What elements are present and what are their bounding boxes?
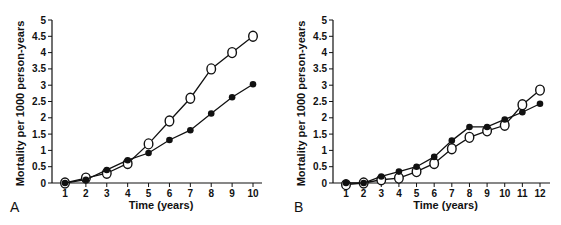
x-tick-label: 1 <box>62 188 68 199</box>
y-tick-label: 0.5 <box>313 161 327 172</box>
filled-circle-marker <box>62 180 69 187</box>
open-circle-marker <box>536 85 545 95</box>
series-filled-circle <box>62 81 257 186</box>
x-tick-label: 5 <box>146 188 152 199</box>
open-circle-marker <box>186 93 195 103</box>
filled-circle-marker <box>484 124 491 131</box>
chart-panel-a: 00.511.522.533.544.5512345678910Time (ye… <box>0 0 280 225</box>
x-tick-label: 6 <box>167 188 173 199</box>
x-tick-label: 9 <box>484 188 490 199</box>
filled-circle-marker <box>166 137 173 144</box>
filled-circle-marker <box>250 81 257 88</box>
filled-circle-marker <box>343 180 350 187</box>
y-tick-label: 2 <box>40 112 46 123</box>
y-tick-label: 3.5 <box>32 63 46 74</box>
open-circle-marker <box>518 100 527 110</box>
y-tick-label: 4 <box>40 47 46 58</box>
y-tick-label: 0 <box>321 178 327 189</box>
x-tick-label: 2 <box>361 188 367 199</box>
y-tick-label: 4.5 <box>32 31 46 42</box>
y-tick-label: 1.5 <box>32 129 46 140</box>
filled-circle-marker <box>103 167 110 174</box>
filled-circle-marker <box>396 168 403 175</box>
x-axis-label: Time (years) <box>413 199 478 211</box>
x-tick-label: 4 <box>396 188 402 199</box>
filled-circle-marker <box>431 154 438 161</box>
open-circle-marker <box>465 132 474 142</box>
x-tick-label: 7 <box>188 188 194 199</box>
filled-circle-marker <box>83 176 90 183</box>
x-tick-label: 8 <box>208 188 214 199</box>
y-tick-label: 1.5 <box>313 129 327 140</box>
x-tick-label: 11 <box>517 188 528 199</box>
x-tick-label: 5 <box>414 188 420 199</box>
x-tick-label: 6 <box>431 188 437 199</box>
open-circle-marker <box>228 48 237 58</box>
y-tick-label: 1 <box>40 145 46 156</box>
filled-circle-marker <box>145 150 152 157</box>
x-tick-label: 12 <box>534 188 546 199</box>
y-tick-label: 0 <box>40 178 46 189</box>
y-tick-label: 2.5 <box>313 96 327 107</box>
filled-circle-marker <box>519 109 526 116</box>
y-tick-label: 3 <box>40 80 46 91</box>
x-tick-label: 10 <box>247 188 259 199</box>
filled-circle-marker <box>537 100 544 107</box>
x-tick-label: 3 <box>378 188 384 199</box>
x-tick-label: 3 <box>104 188 110 199</box>
series-open-circle <box>61 31 258 188</box>
y-tick-label: 2.5 <box>32 96 46 107</box>
y-tick-label: 5 <box>40 15 46 26</box>
filled-circle-marker <box>466 124 473 131</box>
open-circle-marker <box>249 31 258 41</box>
filled-circle-marker <box>449 137 456 144</box>
y-tick-label: 5 <box>321 15 327 26</box>
filled-circle-marker <box>378 173 385 180</box>
filled-circle-marker <box>501 116 508 123</box>
x-tick-label: 4 <box>125 188 131 199</box>
filled-circle-marker <box>229 94 236 101</box>
y-tick-label: 3.5 <box>313 63 327 74</box>
x-tick-label: 8 <box>467 188 473 199</box>
axes: 00.511.522.533.544.55123456789101112 <box>313 15 550 200</box>
x-axis-label: Time (years) <box>129 199 194 211</box>
y-tick-label: 0.5 <box>32 161 46 172</box>
y-tick-label: 4 <box>321 47 327 58</box>
x-tick-label: 7 <box>449 188 455 199</box>
panel-label-b: B <box>294 199 303 215</box>
y-tick-label: 3 <box>321 80 327 91</box>
filled-circle-marker <box>124 157 131 164</box>
x-tick-label: 10 <box>499 188 511 199</box>
chart-panel-b: 00.511.522.533.544.55123456789101112Time… <box>280 0 561 225</box>
x-tick-label: 2 <box>83 188 89 199</box>
figure: 00.511.522.533.544.5512345678910Time (ye… <box>0 0 561 225</box>
open-circle-marker <box>207 64 216 74</box>
filled-circle-marker <box>360 180 367 187</box>
y-tick-label: 4.5 <box>313 31 327 42</box>
y-axis-label: Mortality per 1000 person-years <box>14 21 26 187</box>
y-axis-label: Mortality per 1000 person-years <box>295 21 307 187</box>
filled-circle-marker <box>413 163 420 170</box>
panel-label-a: A <box>10 199 19 215</box>
series-open-circle <box>342 85 545 190</box>
x-tick-label: 9 <box>229 188 235 199</box>
axes: 00.511.522.533.544.5512345678910 <box>32 15 262 200</box>
filled-circle-marker <box>208 110 215 117</box>
series-filled-circle <box>343 100 544 186</box>
open-circle-marker <box>144 139 153 149</box>
open-circle-marker <box>165 116 174 126</box>
y-tick-label: 2 <box>321 112 327 123</box>
y-tick-label: 1 <box>321 145 327 156</box>
filled-circle-marker <box>187 127 194 134</box>
open-circle-marker <box>448 144 457 154</box>
